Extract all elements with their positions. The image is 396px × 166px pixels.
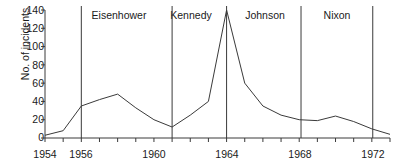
chart-root: No. of incidents 140 120 100 80 60 40 20…	[0, 0, 396, 166]
chart-axes	[41, 10, 390, 142]
data-line-series	[45, 10, 390, 135]
chart-canvas	[0, 0, 396, 166]
